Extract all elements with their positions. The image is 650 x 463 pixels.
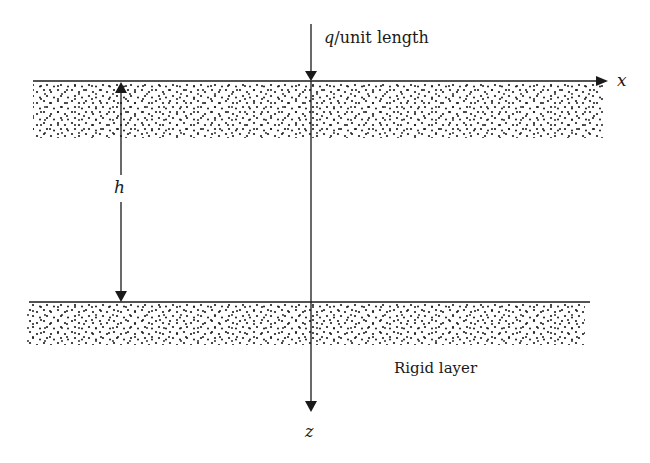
- rigid-layer-band: [27, 304, 585, 345]
- rigid-layer-label: Rigid layer: [394, 359, 477, 377]
- load-label: q/unit length: [324, 28, 429, 47]
- load-label-variable: q: [324, 28, 334, 47]
- x-axis-label: x: [617, 70, 627, 90]
- load-arrow: [305, 24, 317, 81]
- soil-layer-diagram: [0, 0, 650, 463]
- z-axis-label: z: [305, 422, 313, 441]
- load-label-unit: /unit length: [334, 28, 429, 47]
- thickness-label: h: [114, 177, 125, 197]
